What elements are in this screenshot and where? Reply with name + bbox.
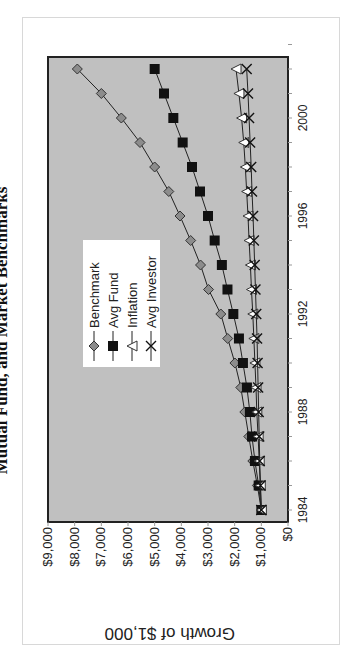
data-point-square-icon — [187, 162, 197, 172]
data-point-square-icon — [168, 113, 178, 123]
data-point-square-icon — [159, 89, 169, 99]
data-point-square-icon — [195, 187, 205, 197]
legend-item-inflation: Inflation — [123, 282, 141, 361]
legend-label: Avg Fund — [106, 273, 121, 328]
data-point-square-icon — [217, 260, 227, 270]
legend-item-avg-fund: Avg Fund — [104, 273, 122, 361]
data-point-square-icon — [203, 211, 213, 221]
triangle-marker-icon — [125, 331, 139, 361]
x-marker-icon — [144, 331, 158, 361]
data-point-square-icon — [150, 64, 160, 74]
data-point-square-icon — [238, 358, 248, 368]
data-point-square-icon — [178, 138, 188, 148]
data-point-square-icon — [222, 285, 232, 295]
chart-stage: Mutual Fund, and Market Benchmarks Growt… — [0, 0, 350, 661]
square-marker-icon — [106, 331, 120, 361]
legend-label: Benchmark — [87, 262, 102, 328]
legend-item-avg-investor: Avg Investor — [142, 256, 160, 361]
diamond-marker-icon — [87, 331, 101, 361]
data-point-square-icon — [228, 309, 238, 319]
legend-label: Inflation — [125, 282, 140, 328]
data-point-square-icon — [210, 236, 220, 246]
legend-label: Avg Investor — [144, 256, 159, 328]
data-point-square-icon — [234, 334, 244, 344]
legend: Benchmark Avg Fund Inflation Avg Investo… — [83, 240, 160, 367]
legend-item-benchmark: Benchmark — [85, 262, 103, 361]
plot-area — [0, 0, 350, 661]
